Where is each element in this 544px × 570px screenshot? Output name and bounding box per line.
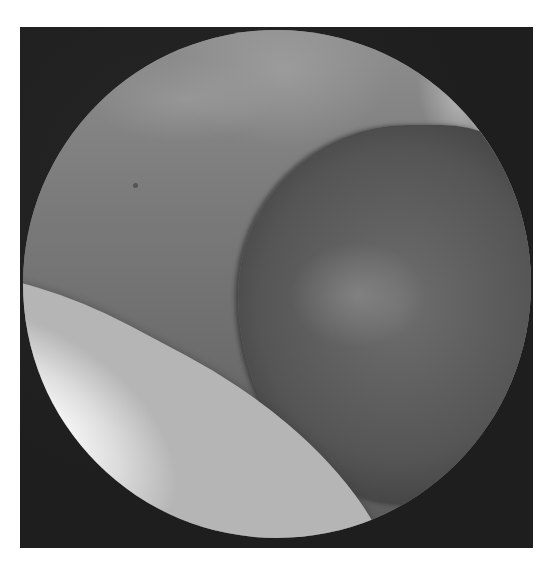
endoscope-frame (20, 27, 533, 548)
tissue-speck (133, 183, 138, 188)
endoscopic-field-of-view (23, 30, 531, 538)
